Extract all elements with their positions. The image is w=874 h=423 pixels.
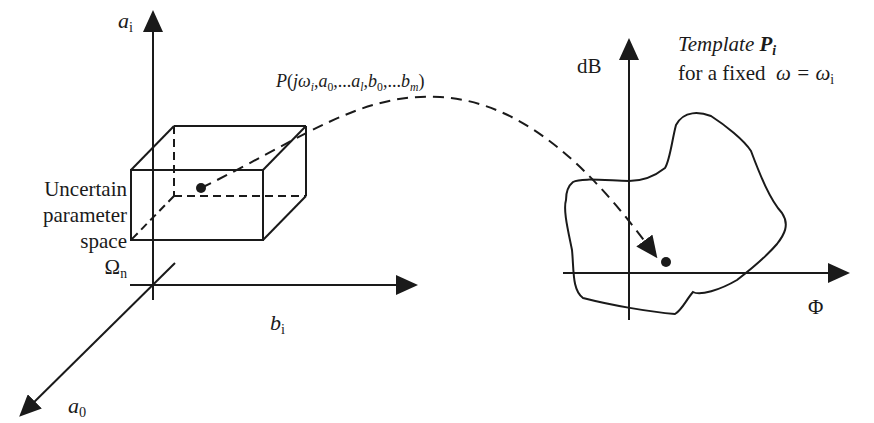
fn-close: ) xyxy=(418,71,424,91)
axis-ai-symbol: a xyxy=(118,8,129,33)
omega-equation-subscript: i xyxy=(830,72,834,87)
axis-ai-subscript: i xyxy=(129,19,133,35)
template-subtitle: for a fixed ω = ωi xyxy=(678,63,834,87)
mapping-function-label: P(jωi,a0,...al,b0,...bm) xyxy=(276,72,424,93)
fn-dots-2: ,... xyxy=(383,71,401,91)
axis-a0-symbol: a xyxy=(68,393,79,418)
fn-P: P xyxy=(276,71,287,91)
parameter-space-label: Uncertain parameter space Ωn xyxy=(0,176,127,287)
mapping-arrow xyxy=(201,97,655,255)
fn-b0: b xyxy=(368,71,377,91)
fixed-frequency-text: for a fixed xyxy=(678,61,765,85)
template-subscript: i xyxy=(772,43,776,58)
uncertainty-box xyxy=(131,126,306,240)
fn-omega: ω xyxy=(298,71,311,91)
fn-al: a xyxy=(351,71,360,91)
fn-bm: b xyxy=(401,71,410,91)
parameter-space-line-2: parameter xyxy=(0,202,127,228)
template-contour xyxy=(565,113,786,314)
axis-bi-subscript: i xyxy=(281,321,285,337)
omega-subscript: n xyxy=(120,266,127,281)
axis-bi-label: bi xyxy=(270,312,285,337)
template-title: Template Pi xyxy=(678,34,776,58)
fn-dots-1: ,... xyxy=(333,71,351,91)
parameter-space-symbol: Ωn xyxy=(0,254,127,287)
template-point xyxy=(661,257,671,267)
axis-phi-label: Φ xyxy=(808,297,823,318)
parameter-space-line-1: Uncertain xyxy=(0,176,127,202)
axis-a0-label: a0 xyxy=(68,395,86,420)
omega-symbol: Ω xyxy=(105,255,121,279)
template-symbol: P xyxy=(759,32,772,56)
axis-a0-subscript: 0 xyxy=(79,404,86,420)
omega-equation: ω = ω xyxy=(776,61,830,85)
axis-ai-label: ai xyxy=(118,10,133,35)
axis-bi-symbol: b xyxy=(270,310,281,335)
template-word: Template xyxy=(678,32,754,56)
axis-db-label: dB xyxy=(577,56,602,77)
parameter-space-line-3: space xyxy=(0,228,127,254)
